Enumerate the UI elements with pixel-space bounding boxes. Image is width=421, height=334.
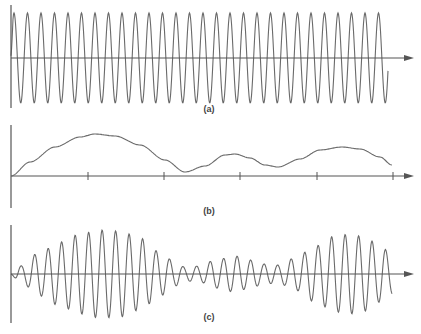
modulating-curve [11, 134, 392, 176]
panel-c-am-signal [11, 225, 414, 323]
panel-b-arrow-icon [404, 173, 414, 179]
panel-c-label: (c) [204, 312, 215, 322]
panel-b-modulating-signal [11, 125, 414, 208]
panel-b-label: (b) [203, 206, 215, 216]
panel-a-label: (a) [204, 104, 215, 114]
panel-c-arrow-icon [404, 271, 414, 277]
waveform-canvas [0, 0, 421, 334]
panel-a-carrier [11, 5, 414, 108]
modulation-diagram: (a) (b) (c) [0, 0, 421, 334]
panel-a-arrow-icon [404, 55, 414, 61]
